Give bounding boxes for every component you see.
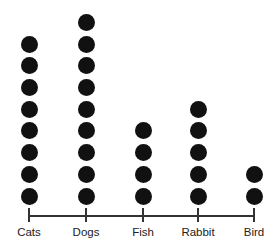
x-axis-tick bbox=[28, 208, 30, 222]
x-axis-label-fish: Fish bbox=[132, 226, 154, 238]
x-axis-label-dogs: Dogs bbox=[73, 226, 100, 238]
data-dot-dogs bbox=[78, 101, 95, 118]
data-dot-cats bbox=[21, 36, 38, 53]
data-dot-rabbit bbox=[190, 101, 207, 118]
data-dot-fish bbox=[135, 122, 152, 139]
data-dot-dogs bbox=[78, 122, 95, 139]
dot-plot: CatsDogsFishRabbitBird bbox=[0, 0, 277, 248]
data-dot-fish bbox=[135, 144, 152, 161]
data-dot-fish bbox=[135, 166, 152, 183]
x-axis-label-bird: Bird bbox=[244, 226, 264, 238]
data-dot-cats bbox=[21, 79, 38, 96]
data-dot-rabbit bbox=[190, 122, 207, 139]
x-axis-tick bbox=[253, 208, 255, 222]
x-axis-tick bbox=[197, 208, 199, 222]
data-dot-rabbit bbox=[190, 188, 207, 205]
data-dot-dogs bbox=[78, 166, 95, 183]
data-dot-fish bbox=[135, 188, 152, 205]
x-axis-label-rabbit: Rabbit bbox=[181, 226, 214, 238]
data-dot-dogs bbox=[78, 188, 95, 205]
data-dot-cats bbox=[21, 57, 38, 74]
x-axis-tick bbox=[85, 208, 87, 222]
data-dot-cats bbox=[21, 144, 38, 161]
x-axis-tick bbox=[142, 208, 144, 222]
data-dot-rabbit bbox=[190, 144, 207, 161]
data-dot-dogs bbox=[78, 14, 95, 31]
data-dot-cats bbox=[21, 122, 38, 139]
data-dot-cats bbox=[21, 188, 38, 205]
data-dot-bird bbox=[246, 166, 263, 183]
data-dot-cats bbox=[21, 101, 38, 118]
data-dot-bird bbox=[246, 188, 263, 205]
data-dot-dogs bbox=[78, 57, 95, 74]
data-dot-rabbit bbox=[190, 166, 207, 183]
data-dot-dogs bbox=[78, 79, 95, 96]
data-dot-dogs bbox=[78, 36, 95, 53]
x-axis-label-cats: Cats bbox=[17, 226, 41, 238]
data-dot-cats bbox=[21, 166, 38, 183]
data-dot-dogs bbox=[78, 144, 95, 161]
